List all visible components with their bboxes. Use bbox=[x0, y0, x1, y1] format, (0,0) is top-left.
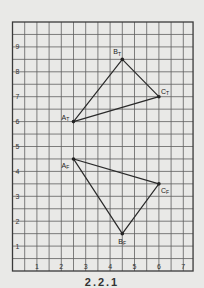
y-tick-label: 8 bbox=[16, 68, 20, 75]
vertex-point bbox=[72, 157, 76, 161]
y-tick-label: 9 bbox=[16, 43, 20, 50]
x-tick-label: 7 bbox=[181, 263, 185, 270]
vertex-point bbox=[121, 232, 125, 236]
triangles: ATBTCTAFBFCF bbox=[62, 48, 170, 246]
vertex-point bbox=[157, 182, 161, 186]
x-tick-label: 3 bbox=[84, 263, 88, 270]
vertex-point bbox=[157, 95, 161, 99]
x-tick-label: 5 bbox=[133, 263, 137, 270]
vertex-label: CT bbox=[161, 88, 169, 97]
grid-lines bbox=[13, 22, 194, 271]
x-tick-label: 2 bbox=[59, 263, 63, 270]
vertex-label: BT bbox=[113, 48, 121, 57]
y-tick-label: 5 bbox=[16, 143, 20, 150]
y-tick-label: 2 bbox=[16, 218, 20, 225]
vertex-label: CF bbox=[161, 187, 169, 196]
x-tick-label: 4 bbox=[108, 263, 112, 270]
y-tick-label: 3 bbox=[16, 193, 20, 200]
vertex-point bbox=[121, 58, 125, 62]
x-tick-label: 6 bbox=[157, 263, 161, 270]
triangle-upper bbox=[74, 59, 159, 121]
y-tick-label: 4 bbox=[16, 168, 20, 175]
x-tick-label: 1 bbox=[35, 263, 39, 270]
vertex-label: AF bbox=[62, 162, 70, 171]
vertex-label: AT bbox=[62, 114, 70, 123]
y-tick-label: 7 bbox=[16, 93, 20, 100]
vertex-label: BF bbox=[118, 238, 126, 247]
figure-caption: 2.2.1 bbox=[0, 276, 204, 288]
y-tick-label: 1 bbox=[16, 243, 20, 250]
vertex-point bbox=[72, 120, 76, 124]
axis-tick-labels: 1234567123456789 bbox=[16, 43, 186, 270]
y-tick-label: 6 bbox=[16, 118, 20, 125]
